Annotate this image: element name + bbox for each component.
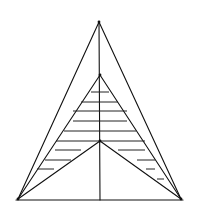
vertex-point-e: [99, 140, 102, 143]
vertex-point-b: [17, 198, 20, 201]
vertex-point-d: [99, 74, 102, 77]
inner-left-side-line: [18, 75, 100, 199]
vertex-point-c: [180, 198, 183, 201]
hatch-lines: [37, 92, 164, 179]
vertex-point-a: [98, 21, 101, 24]
geometric-diagram: [0, 0, 198, 220]
inner-right-side-line: [100, 75, 181, 199]
